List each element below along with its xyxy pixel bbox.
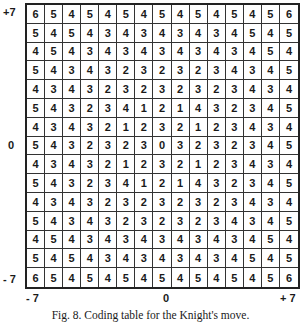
table-cell: 3 — [153, 43, 171, 62]
table-cell: 6 — [27, 5, 45, 24]
table-cell: 2 — [135, 118, 153, 137]
table-cell: 3 — [135, 61, 153, 80]
table-cell: 5 — [153, 268, 171, 287]
table-cell: 4 — [81, 61, 99, 80]
table-cell: 3 — [244, 212, 262, 231]
table-cell: 1 — [190, 118, 208, 137]
table-cell: 4 — [63, 268, 81, 287]
table-cell: 4 — [172, 268, 190, 287]
table-cell: 4 — [226, 61, 244, 80]
table-cell: 3 — [153, 80, 171, 99]
table-cell: 2 — [153, 99, 171, 118]
table-cell: 6 — [280, 5, 298, 24]
table-cell: 3 — [172, 212, 190, 231]
table-cell: 4 — [117, 99, 135, 118]
table-cell: 4 — [190, 249, 208, 268]
table-cell: 3 — [226, 155, 244, 174]
table-cell: 4 — [280, 80, 298, 99]
table-cell: 4 — [63, 231, 81, 250]
table-cell: 2 — [172, 118, 190, 137]
table-cell: 3 — [208, 61, 226, 80]
table-cell: 3 — [63, 212, 81, 231]
table-cell: 4 — [99, 231, 117, 250]
table-cell: 4 — [63, 5, 81, 24]
table-cell: 4 — [172, 43, 190, 62]
table-cell: 4 — [63, 80, 81, 99]
table-cell: 5 — [280, 212, 298, 231]
table-cell: 4 — [135, 231, 153, 250]
table-cell: 5 — [262, 268, 280, 287]
table-cell: 5 — [63, 24, 81, 43]
table-cell: 4 — [262, 212, 280, 231]
table-cell: 3 — [63, 137, 81, 156]
table-cell: 3 — [244, 174, 262, 193]
table-cell: 3 — [244, 137, 262, 156]
table-cell: 5 — [280, 61, 298, 80]
table-cell: 5 — [280, 24, 298, 43]
table-cell: 4 — [172, 231, 190, 250]
table-cell: 1 — [117, 118, 135, 137]
table-cell: 3 — [45, 118, 63, 137]
table-cell: 4 — [135, 5, 153, 24]
table-cell: 5 — [244, 24, 262, 43]
table-cell: 2 — [117, 137, 135, 156]
table-cell: 4 — [135, 268, 153, 287]
table-cell: 3 — [190, 43, 208, 62]
table-cell: 3 — [172, 137, 190, 156]
table-cell: 5 — [27, 61, 45, 80]
table-cell: 4 — [45, 249, 63, 268]
table-cell: 3 — [81, 155, 99, 174]
table-cell: 4 — [208, 43, 226, 62]
table-cell: 4 — [280, 193, 298, 212]
table-cell: 5 — [190, 5, 208, 24]
table-cell: 4 — [153, 249, 171, 268]
table-cell: 4 — [81, 24, 99, 43]
table-cell: 4 — [45, 137, 63, 156]
table-cell: 4 — [27, 80, 45, 99]
table-cell: 4 — [172, 5, 190, 24]
table-cell: 5 — [27, 99, 45, 118]
table-cell: 2 — [135, 155, 153, 174]
table-cell: 2 — [153, 212, 171, 231]
table-cell: 3 — [99, 24, 117, 43]
table-cell: 5 — [262, 231, 280, 250]
table-cell: 1 — [135, 174, 153, 193]
table-cell: 4 — [226, 24, 244, 43]
table-cell: 5 — [262, 5, 280, 24]
table-cell: 3 — [45, 80, 63, 99]
table-cell: 3 — [117, 43, 135, 62]
table-cell: 2 — [172, 155, 190, 174]
table-cell: 2 — [208, 155, 226, 174]
table-cell: 4 — [244, 193, 262, 212]
table-cell: 4 — [81, 212, 99, 231]
table-cell: 4 — [190, 99, 208, 118]
table-cell: 5 — [280, 137, 298, 156]
table-cell: 2 — [99, 80, 117, 99]
table-cell: 4 — [45, 24, 63, 43]
table-cell: 4 — [208, 268, 226, 287]
table-cell: 3 — [135, 249, 153, 268]
table-cell: 4 — [262, 24, 280, 43]
y-axis-label-middle: 0 — [8, 139, 14, 151]
table-cell: 3 — [99, 249, 117, 268]
table-cell: 3 — [208, 137, 226, 156]
table-cell: 4 — [280, 43, 298, 62]
table-cell: 2 — [226, 137, 244, 156]
table-cell: 5 — [280, 99, 298, 118]
table-cell: 4 — [63, 43, 81, 62]
table-cell: 3 — [262, 80, 280, 99]
table-cell: 3 — [172, 24, 190, 43]
table-cell: 3 — [244, 99, 262, 118]
table-cell: 2 — [208, 80, 226, 99]
table-cell: 4 — [117, 249, 135, 268]
table-cell: 3 — [135, 24, 153, 43]
table-cell: 1 — [172, 99, 190, 118]
table-cell: 4 — [27, 231, 45, 250]
table-cell: 4 — [262, 99, 280, 118]
table-cell: 2 — [99, 155, 117, 174]
table-cell: 3 — [81, 43, 99, 62]
table-cell: 5 — [190, 268, 208, 287]
table-cell: 4 — [244, 268, 262, 287]
table-cell: 3 — [81, 193, 99, 212]
table-cell: 4 — [244, 43, 262, 62]
